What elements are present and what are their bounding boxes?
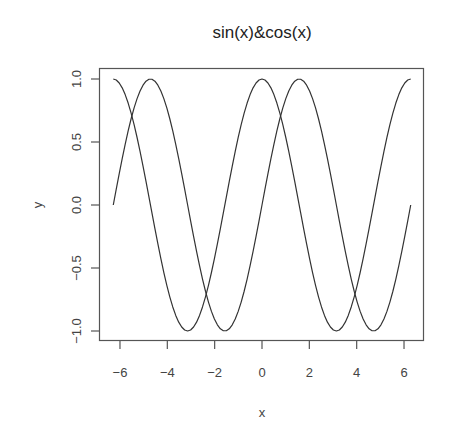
x-tick-label: −4 (160, 365, 175, 380)
series-sin-line (113, 79, 410, 331)
x-tick-label: 2 (306, 365, 313, 380)
chart-plot: sin(x)&cos(x) −6−4−20246 −1.0−0.50.00.51… (0, 0, 452, 440)
x-tick-label: −6 (113, 365, 128, 380)
x-tick-label: 6 (400, 365, 407, 380)
x-tick-label: −2 (207, 365, 222, 380)
y-tick-label: 0.0 (69, 196, 84, 214)
y-axis-label: y (30, 201, 45, 208)
x-axis-label: x (259, 405, 266, 420)
y-axis: −1.0−0.50.00.51.0 (69, 70, 100, 344)
y-tick-label: 0.5 (69, 133, 84, 151)
x-tick-label: 4 (353, 365, 360, 380)
x-axis: −6−4−20246 (113, 341, 408, 380)
chart-title: sin(x)&cos(x) (212, 23, 311, 42)
y-tick-label: 1.0 (69, 70, 84, 88)
y-tick-label: −0.5 (69, 255, 84, 281)
y-tick-label: −1.0 (69, 318, 84, 344)
series-layer (113, 79, 410, 331)
x-tick-label: 0 (258, 365, 265, 380)
